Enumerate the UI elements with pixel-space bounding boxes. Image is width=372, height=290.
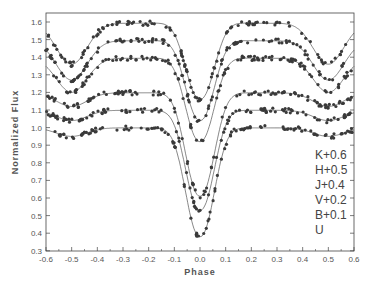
series-v-0-2	[46, 89, 354, 199]
y-tick-label: 0.7	[31, 176, 43, 185]
y-tick-label: 1.4	[31, 53, 43, 62]
x-tick-label: 0.3	[271, 255, 283, 264]
curves-group	[44, 20, 354, 238]
y-tick-label: 1.5	[31, 36, 43, 45]
x-tick-label: 0.6	[348, 255, 360, 264]
x-tick-label: -0.2	[142, 255, 156, 264]
y-tick-label: 1.2	[31, 88, 43, 97]
y-tick-label: 0.3	[31, 247, 43, 256]
y-tick-label: 0.4	[31, 229, 43, 238]
y-tick-label: 1.3	[31, 71, 43, 80]
legend-item-v: V+0.2	[315, 193, 347, 207]
x-tick-label: -0.1	[167, 255, 181, 264]
x-axis-ticks: -0.6-0.5-0.4-0.3-0.2-0.10.00.10.20.30.40…	[39, 247, 360, 264]
y-tick-label: 0.9	[31, 141, 43, 150]
x-tick-label: 0.0	[194, 255, 206, 264]
x-tick-label: -0.3	[116, 255, 130, 264]
y-tick-label: 0.8	[31, 159, 43, 168]
light-curve-chart: -0.6-0.5-0.4-0.3-0.2-0.10.00.10.20.30.40…	[0, 0, 372, 290]
x-tick-label: 0.2	[246, 255, 258, 264]
y-tick-label: 0.5	[31, 212, 43, 221]
legend-item-h: H+0.5	[315, 163, 348, 177]
y-tick-label: 1.1	[31, 106, 43, 115]
legend-item-j: J+0.4	[315, 178, 345, 192]
series-h-0-5	[44, 37, 354, 123]
x-tick-label: -0.5	[65, 255, 79, 264]
y-tick-label: 1.6	[31, 18, 43, 27]
legend-item-b: B+0.1	[315, 208, 347, 222]
series-u	[46, 124, 354, 238]
x-tick-label: -0.6	[39, 255, 53, 264]
legend-item-u: U	[315, 223, 324, 237]
x-tick-label: 0.1	[220, 255, 232, 264]
y-tick-label: 1.0	[31, 124, 43, 133]
x-tick-label: 0.5	[323, 255, 335, 264]
series-k-0-6	[46, 20, 354, 103]
legend: K+0.6 H+0.5 J+0.4 V+0.2 B+0.1 U	[315, 148, 348, 237]
y-axis-title: Normalized Flux	[10, 90, 20, 175]
x-tick-label: 0.4	[297, 255, 309, 264]
x-tick-label: -0.4	[90, 255, 104, 264]
legend-item-k: K+0.6	[315, 148, 347, 162]
y-tick-label: 0.6	[31, 194, 43, 203]
x-axis-title: Phase	[184, 267, 216, 277]
